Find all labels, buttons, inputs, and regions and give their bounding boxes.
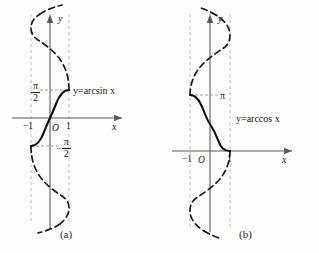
- arcsin-equation-label: y=arcsin x: [73, 85, 115, 96]
- y-tick-minus-pi-over-2: − π 2: [56, 137, 71, 159]
- minus-pi-over-2-denominator: 2: [62, 149, 71, 159]
- panel-arccos: −1 1 O y x π y=arccos x (b): [160, 0, 319, 253]
- x-axis-label: x: [111, 121, 117, 132]
- arccos-equation-label: y=arccos x: [236, 113, 280, 124]
- y-axis-label: y: [217, 13, 223, 24]
- caption-a: (a): [0, 228, 146, 240]
- x-tick-minus1: −1: [182, 154, 192, 164]
- y-axis-label: y: [57, 13, 63, 24]
- arccos-dashed-upper-2: [198, 7, 216, 15]
- origin-label: O: [52, 123, 59, 133]
- x-tick-plus1: 1: [227, 154, 232, 164]
- arccos-plot: −1 1 O y x π: [160, 0, 319, 253]
- y-tick-pi-over-2: π 2: [31, 81, 40, 103]
- y-tick-pi: π: [220, 90, 225, 101]
- x-tick-minus1: −1: [23, 121, 33, 131]
- x-tick-plus1: 1: [66, 121, 71, 131]
- y-axis-arrowhead: [47, 14, 53, 23]
- minus-pi-over-2-numerator: π: [62, 137, 71, 147]
- pi-over-2-numerator: π: [31, 81, 40, 91]
- origin-label: O: [198, 155, 205, 165]
- caption-b: (b): [166, 228, 319, 240]
- pi-over-2-denominator: 2: [31, 93, 40, 103]
- x-axis-label: x: [281, 154, 287, 165]
- arcsin-plot: −1 1 O y x: [0, 0, 160, 253]
- y-axis-arrowhead: [207, 14, 213, 23]
- panel-arcsin: −1 1 O y x π 2 − π 2 y=arcsin x (a): [0, 0, 160, 253]
- inverse-trig-figure: −1 1 O y x π 2 − π 2 y=arcsin x (a): [0, 0, 319, 253]
